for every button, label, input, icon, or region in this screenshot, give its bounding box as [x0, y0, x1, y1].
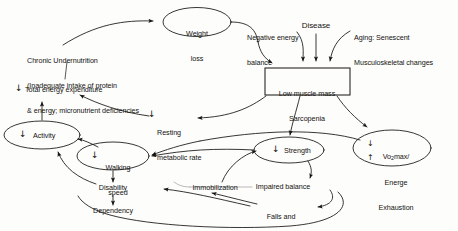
down-arrow-icon-total-energy-expenditure: ↓	[15, 84, 23, 93]
edge-immobilization-to-disability-hook	[174, 182, 190, 187]
node-falls-line1: Falls and	[267, 213, 296, 221]
node-low-muscle-mass: Low muscle mass Sarcopenia	[279, 73, 335, 140]
node-total-energy-expenditure: Total energy expenditure	[25, 86, 103, 94]
node-impaired-balance: Impaired balance	[256, 183, 310, 191]
node-vo2max-exhaustion: Vo2max/ Energe Exhaustion	[378, 136, 413, 229]
node-vo2max-line1: Vo2max/	[378, 153, 413, 162]
node-disease: Disease	[302, 22, 331, 30]
node-activity: Activity	[33, 132, 55, 140]
node-resting-metabolic-rate: Resting metabolic rate	[157, 112, 201, 179]
node-falls-and-injuries: Falls and injuries	[267, 196, 296, 231]
node-aging: Aging: Senescent Musculoskeletal changes	[354, 17, 433, 84]
node-resting-metabolic-rate-line1: Resting	[157, 129, 201, 137]
down-arrow-icon-activity: ↓	[19, 130, 27, 139]
down-arrow-icon-resting-metabolic-rate: ↓	[148, 110, 156, 119]
edge-aging-to-low-muscle-mass	[330, 31, 350, 61]
node-negative-energy-balance-line1: Negative energy	[247, 34, 299, 42]
node-immobilization: Immobilization	[192, 184, 237, 192]
node-dependency: Dependency	[93, 207, 133, 215]
node-resting-metabolic-rate-line2: metabolic rate	[157, 154, 201, 162]
node-disability: Disability	[99, 184, 127, 192]
node-strength: Strength	[284, 147, 311, 155]
node-chronic-undernutrition-line3: & energy; micronutrient deficiencies	[27, 107, 139, 115]
node-chronic-undernutrition-line1: Chronic Undernutrition	[27, 57, 139, 65]
edge-impaired-balance-to-falls	[318, 190, 333, 207]
down-arrow-icon-strength: ↓	[272, 145, 280, 154]
node-vo2max-line2: Energe	[378, 179, 413, 187]
node-negative-energy-balance-line2: balance	[247, 59, 299, 67]
node-walking-speed: Walking speed	[106, 147, 131, 214]
node-weight-loss-line1: Weight	[186, 30, 208, 38]
edge-immobilization-to-strength	[222, 151, 256, 182]
diagram-canvas: Weight loss Chronic Undernutrition (Inad…	[0, 0, 458, 231]
edge-low-muscle-mass-to-rmr	[198, 96, 266, 118]
node-weight-loss: Weight loss	[186, 13, 208, 80]
node-low-muscle-mass-line1: Low muscle mass	[279, 90, 335, 98]
vo2max-suffix: max/	[394, 152, 409, 161]
node-vo2max-line3: Exhaustion	[378, 204, 413, 212]
node-low-muscle-mass-line2: Sarcopenia	[279, 115, 335, 123]
down-arrow-icon-walking-speed: ↓	[91, 151, 99, 160]
vo2max-prefix: Vo	[383, 152, 391, 161]
edge-low-muscle-mass-to-vo2max	[337, 96, 367, 127]
edge-strength-to-impaired-balance	[308, 161, 311, 178]
up-arrow-icon-exhaustion: ↑	[367, 153, 374, 162]
node-aging-line2: Musculoskeletal changes	[354, 59, 433, 67]
down-arrow-icon-vo2max: ↓	[367, 139, 374, 148]
node-weight-loss-line2: loss	[186, 55, 208, 63]
node-aging-line1: Aging: Senescent	[354, 34, 433, 42]
node-walking-speed-line1: Walking	[106, 164, 131, 172]
